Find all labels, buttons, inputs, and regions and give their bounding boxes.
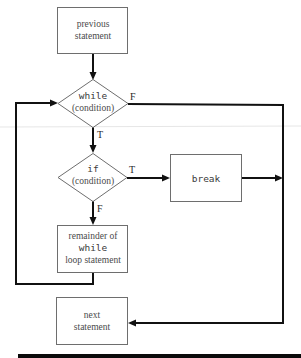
- if-condition: (condition): [72, 176, 114, 187]
- while-keyword: while: [79, 90, 108, 101]
- while-condition: (condition): [72, 103, 114, 114]
- node-previous-statement: previous statement: [58, 8, 128, 54]
- previous-line-1: previous: [77, 19, 110, 29]
- if-keyword: if: [87, 163, 98, 174]
- edge-while-false-to-next: [128, 104, 283, 327]
- previous-line-2: statement: [75, 31, 112, 41]
- label-while-true: T: [97, 129, 103, 140]
- label-while-false: F: [130, 91, 136, 102]
- label-if-false: F: [97, 203, 103, 214]
- remainder-line-3: loop statement: [65, 255, 121, 265]
- next-line-2: statement: [74, 322, 111, 332]
- edge-break-to-exit: [242, 175, 283, 182]
- node-next-statement: next statement: [57, 298, 128, 345]
- node-if-decision: if (condition): [58, 154, 127, 202]
- break-keyword: break: [192, 173, 221, 184]
- node-while-decision: while (condition): [58, 80, 128, 128]
- edge-if-false-to-remainder: [90, 201, 97, 225]
- label-if-true: T: [129, 164, 135, 175]
- node-break: break: [171, 155, 242, 202]
- node-remainder: remainder of while loop statement: [58, 226, 128, 273]
- remainder-line-1: remainder of: [69, 231, 119, 241]
- edge-previous-to-while: [90, 53, 97, 80]
- next-line-1: next: [84, 310, 101, 320]
- while-break-flowchart: previous statement while (condition) if …: [0, 0, 301, 358]
- remainder-keyword: while: [79, 242, 108, 253]
- edge-while-true-to-if: [90, 127, 97, 153]
- edge-if-true-to-break: [127, 175, 170, 182]
- footer-bar: [18, 354, 301, 358]
- scan-artifact-line: [0, 126, 301, 127]
